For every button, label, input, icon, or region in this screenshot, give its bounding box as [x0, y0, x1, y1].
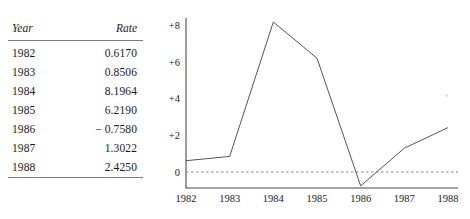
x-tick-label: 1983 — [219, 193, 240, 204]
cell-year: 1982 — [8, 41, 57, 64]
y-tick-label: +8 — [169, 20, 180, 31]
page-speck — [446, 95, 448, 97]
table-body: 1982 0.6170 1983 0.8506 1984 8.1964 1985… — [8, 41, 143, 178]
x-tick-label: 1988 — [438, 193, 459, 204]
y-tick-label: 0 — [175, 167, 180, 178]
table-row: 1986 − 0.7580 — [8, 120, 143, 139]
x-tick-label: 1985 — [307, 193, 328, 204]
table-header: Year Rate — [8, 22, 143, 41]
y-axis-tick-labels: +8+6+4+20 — [169, 20, 181, 177]
y-tick-label: +6 — [169, 57, 180, 68]
chart-axes — [186, 18, 458, 188]
cell-rate: 2.4250 — [57, 158, 143, 178]
column-header-year: Year — [8, 22, 57, 41]
y-tick-label: +2 — [169, 130, 180, 141]
cell-rate: 0.6170 — [57, 41, 143, 64]
column-header-rate: Rate — [57, 22, 143, 41]
table-row: 1987 1.3022 — [8, 139, 143, 158]
cell-rate: 1.3022 — [57, 139, 143, 158]
rate-series-line — [186, 22, 448, 186]
cell-rate: 8.1964 — [57, 82, 143, 101]
cell-rate: − 0.7580 — [57, 120, 143, 139]
x-tick-label: 1987 — [394, 193, 415, 204]
rate-line-chart: +8+6+4+20 1982198319841985198619871988 — [160, 0, 470, 219]
table-row: 1988 2.4250 — [8, 158, 143, 178]
table-header-row: Year Rate — [8, 22, 143, 41]
x-tick-label: 1982 — [176, 193, 197, 204]
cell-year: 1987 — [8, 139, 57, 158]
cell-year: 1986 — [8, 120, 57, 139]
table-row: 1982 0.6170 — [8, 41, 143, 64]
cell-rate: 0.8506 — [57, 63, 143, 82]
chart-svg: +8+6+4+20 1982198319841985198619871988 — [160, 0, 470, 219]
x-tick-label: 1986 — [350, 193, 371, 204]
cell-year: 1984 — [8, 82, 57, 101]
y-tick-label: +4 — [169, 93, 181, 104]
x-axis-tick-labels: 1982198319841985198619871988 — [176, 193, 459, 204]
cell-year: 1988 — [8, 158, 57, 178]
cell-year: 1985 — [8, 101, 57, 120]
table-row: 1985 6.2190 — [8, 101, 143, 120]
table-row: 1984 8.1964 — [8, 82, 143, 101]
rate-table: Year Rate 1982 0.6170 1983 0.8506 1984 8… — [8, 22, 143, 178]
cell-rate: 6.2190 — [57, 101, 143, 120]
table-row: 1983 0.8506 — [8, 63, 143, 82]
rate-table-panel: Year Rate 1982 0.6170 1983 0.8506 1984 8… — [8, 22, 148, 178]
x-tick-label: 1984 — [263, 193, 285, 204]
cell-year: 1983 — [8, 63, 57, 82]
